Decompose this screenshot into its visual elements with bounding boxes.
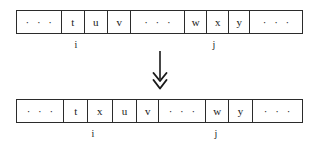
array-cell-before-7: y (229, 11, 251, 33)
index-label-i-before: i (69, 40, 83, 50)
array-cell-before-0: · · · (17, 11, 62, 33)
array-cell-before-6: x (207, 11, 229, 33)
array-cell-after-8: · · · (253, 100, 302, 122)
array-cell-before-1: t (62, 11, 85, 33)
array-cell-before-8: · · · (250, 11, 302, 33)
array-cell-before-5: w (185, 11, 208, 33)
array-cell-after-0: · · · (17, 100, 64, 122)
array-cell-after-3: u (113, 100, 138, 122)
double-chevron-down-arrow-icon (145, 49, 175, 93)
array-cell-before-4: · · · (131, 11, 184, 33)
index-label-j-before: j (207, 40, 221, 50)
array-cell-after-4: v (137, 100, 159, 122)
array-cell-after-1: t (64, 100, 88, 122)
array-cell-after-6: w (206, 100, 229, 122)
array-cell-after-7: y (229, 100, 253, 122)
array-cell-before-2: u (85, 11, 108, 33)
array-cell-after-2: x (88, 100, 113, 122)
array-cell-after-5: · · · (159, 100, 206, 122)
array-row-before: · · · t u v · · · w x y · · · (16, 10, 303, 34)
index-label-j-after: j (209, 129, 223, 139)
array-row-after: · · · t x u v · · · w y · · · (16, 99, 303, 123)
array-cell-before-3: v (108, 11, 131, 33)
index-label-i-after: i (86, 129, 100, 139)
array-transformation-diagram: · · · t u v · · · w x y · · · i j · · · … (0, 0, 318, 146)
